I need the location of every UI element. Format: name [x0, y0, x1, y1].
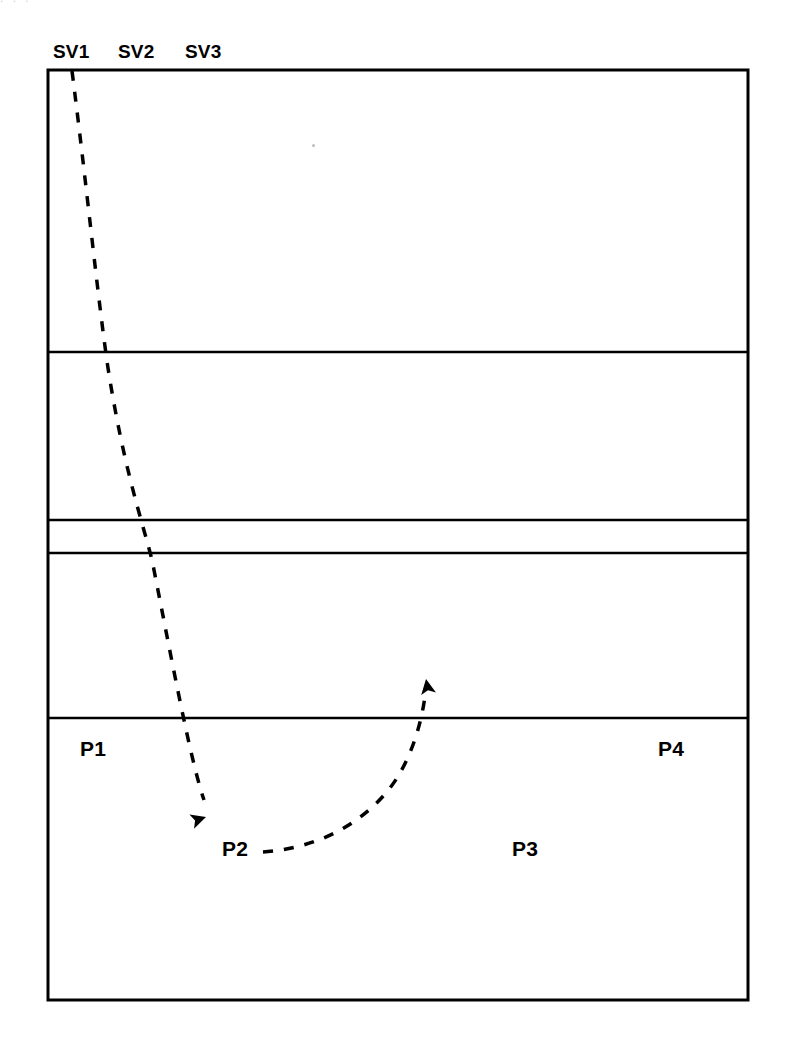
- scan-speck: [312, 144, 315, 147]
- court-divider-lines: [48, 352, 748, 718]
- serve-path: [72, 71, 204, 800]
- footer-note: [0, 1041, 788, 1054]
- serve-arrowhead: [189, 810, 208, 829]
- position-label-p3: P3: [512, 838, 538, 859]
- position-label-p2: P2: [222, 838, 248, 859]
- serve-label-sv2: SV2: [118, 42, 155, 61]
- position-label-p1: P1: [80, 738, 106, 759]
- court-diagram-svg: [0, 0, 788, 1054]
- court-boundary: [48, 70, 748, 1000]
- figure-page: . . . SV1 SV2 SV3 P1 P2 P3 P4: [0, 0, 788, 1054]
- player-movement-path: [263, 696, 425, 852]
- serve-label-sv3: SV3: [185, 42, 222, 61]
- serve-label-sv1: SV1: [53, 42, 90, 61]
- movement-paths: [72, 71, 436, 852]
- court-outline: [48, 70, 748, 1000]
- movement-arrowhead: [419, 678, 436, 695]
- position-label-p4: P4: [658, 738, 684, 759]
